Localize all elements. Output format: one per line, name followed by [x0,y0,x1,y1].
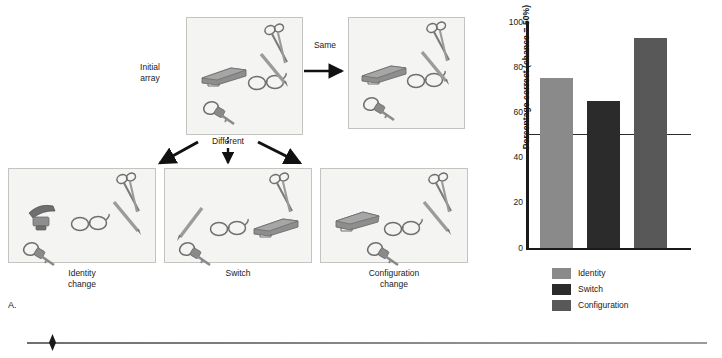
legend-item-switch: Switch [552,282,712,296]
y-tick-100: 100 [509,17,523,27]
label-different: Different [198,136,258,147]
x-axis-line [526,248,691,251]
diamond-marker-icon [46,334,59,351]
y-tick-80: 80 [514,62,523,72]
plot-region [526,22,680,250]
legend-label-switch: Switch [578,284,603,294]
legend-label-identity: Identity [578,268,605,278]
legend-item-identity: Identity [552,266,712,280]
bottom-divider-rule [27,342,707,344]
chart-legend: IdentitySwitchConfiguration [552,266,712,314]
label-same: Same [305,40,345,51]
panel-a-diagram: Initial array Same Different Identity ch… [0,0,470,330]
legend-item-configuration: Configuration [552,298,712,312]
label-configuration-change: Configuration change [334,268,454,290]
y-axis-line [526,22,529,250]
y-axis-tick-labels: 020406080100 [498,22,526,250]
y-tick-20: 20 [514,197,523,207]
legend-swatch-configuration [552,300,571,311]
y-tick-40: 40 [514,152,523,162]
label-identity-change: Identity change [22,268,142,290]
label-switch: Switch [178,268,298,279]
panel-b-chart: Percentage correct (chance = 50%) 020406… [470,0,722,358]
y-tick-0: 0 [518,243,523,253]
bar-identity [540,78,573,247]
y-tick-60: 60 [514,107,523,117]
bar-configuration [634,38,667,248]
bar-chart: Percentage correct (chance = 50%) 020406… [498,22,680,250]
legend-swatch-identity [552,268,571,279]
bar-switch [587,101,620,248]
label-initial-array: Initial array [120,62,180,84]
legend-label-configuration: Configuration [578,300,629,310]
legend-swatch-switch [552,284,571,295]
panel-a-letter: A. [8,300,17,310]
